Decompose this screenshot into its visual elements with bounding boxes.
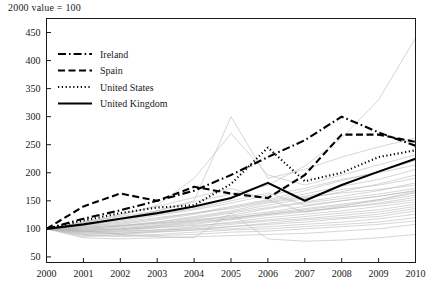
x-axis-tick-labels: 2000200120022003200420052006200720082009…: [37, 268, 426, 279]
x-tick-label: 2004: [184, 268, 204, 279]
y-tick-label: 50: [31, 251, 41, 262]
x-tick-label: 2010: [406, 268, 426, 279]
y-tick-label: 450: [26, 27, 41, 38]
legend-label-spain: Spain: [100, 65, 123, 76]
x-tick-label: 2009: [369, 268, 389, 279]
chart-legend: IrelandSpainUnited StatesUnited Kingdom: [58, 49, 168, 110]
x-tick-label: 2008: [332, 268, 352, 279]
y-tick-label: 400: [26, 55, 41, 66]
y-tick-label: 250: [26, 139, 41, 150]
y-tick-label: 200: [26, 167, 41, 178]
series-line-spain: [47, 135, 416, 229]
x-tick-label: 2001: [73, 268, 93, 279]
y-axis-tick-labels: 50100150200250300350400450: [26, 27, 41, 262]
x-tick-label: 2007: [295, 268, 315, 279]
x-tick-label: 2002: [110, 268, 130, 279]
x-tick-label: 2003: [147, 268, 167, 279]
x-tick-label: 2005: [221, 268, 241, 279]
series-line-other-3: [47, 133, 416, 228]
y-tick-label: 300: [26, 111, 41, 122]
legend-label-united-states: United States: [100, 82, 154, 93]
legend-label-united-kingdom: United Kingdom: [100, 98, 168, 109]
y-tick-label: 350: [26, 83, 41, 94]
line-chart-plot: 50100150200250300350400450 2000200120022…: [0, 0, 432, 296]
x-tick-label: 2000: [37, 268, 57, 279]
chart-container: 2000 value = 100 50100150200250300350400…: [0, 0, 432, 296]
y-tick-label: 100: [26, 223, 41, 234]
x-tick-label: 2006: [258, 268, 278, 279]
y-tick-label: 150: [26, 195, 41, 206]
legend-label-ireland: Ireland: [100, 49, 128, 60]
series-line-other-22: [47, 214, 416, 233]
